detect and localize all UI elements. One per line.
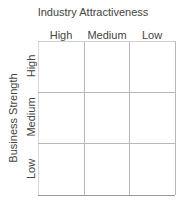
cell-medium-low bbox=[129, 92, 175, 143]
matrix-grid bbox=[38, 41, 175, 195]
grid-line-bottom bbox=[38, 195, 175, 196]
column-header-high: High bbox=[38, 29, 84, 41]
cell-high-medium bbox=[84, 41, 129, 92]
cell-low-low bbox=[129, 143, 175, 195]
y-axis-label: Business Strength bbox=[7, 73, 19, 162]
cell-low-medium bbox=[84, 143, 129, 195]
column-header-medium: Medium bbox=[84, 29, 130, 41]
grid-line-right bbox=[175, 41, 176, 195]
row-header-high: High bbox=[25, 55, 37, 78]
column-header-low: Low bbox=[129, 29, 175, 41]
cell-high-low bbox=[129, 41, 175, 92]
cell-medium-high bbox=[38, 92, 84, 143]
cell-high-high bbox=[38, 41, 84, 92]
cell-medium-medium bbox=[84, 92, 129, 143]
row-header-low: Low bbox=[25, 159, 37, 179]
cell-low-high bbox=[38, 143, 84, 195]
matrix-title: Industry Attractiveness bbox=[0, 6, 186, 18]
row-header-medium: Medium bbox=[25, 97, 37, 136]
